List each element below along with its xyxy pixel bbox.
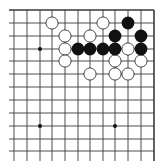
black-stone[interactable] xyxy=(135,30,148,43)
white-stone[interactable] xyxy=(59,43,71,55)
go-board[interactable] xyxy=(0,0,161,164)
star-point xyxy=(38,124,42,128)
white-stone[interactable] xyxy=(46,17,58,29)
star-points xyxy=(38,47,117,128)
black-stone[interactable] xyxy=(97,43,110,56)
star-point xyxy=(38,47,42,51)
black-stone[interactable] xyxy=(84,43,97,56)
black-stone[interactable] xyxy=(109,30,122,43)
white-stone[interactable] xyxy=(109,68,121,80)
white-stone[interactable] xyxy=(122,43,134,55)
stones-layer[interactable] xyxy=(46,17,148,81)
black-stone[interactable] xyxy=(72,43,85,56)
black-stone[interactable] xyxy=(135,43,148,56)
star-point xyxy=(113,124,117,128)
white-stone[interactable] xyxy=(109,55,121,67)
white-stone[interactable] xyxy=(59,30,71,42)
white-stone[interactable] xyxy=(97,17,109,29)
black-stone[interactable] xyxy=(122,17,135,30)
white-stone[interactable] xyxy=(59,55,71,67)
white-stone[interactable] xyxy=(135,55,147,67)
white-stone[interactable] xyxy=(84,30,96,42)
board-grid xyxy=(9,10,154,161)
black-stone[interactable] xyxy=(109,43,122,56)
white-stone[interactable] xyxy=(84,68,96,80)
white-stone[interactable] xyxy=(122,68,134,80)
